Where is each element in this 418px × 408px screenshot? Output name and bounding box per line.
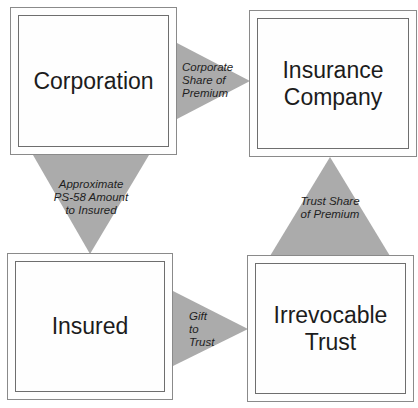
edge-label-ps58-amount: Approximate PS-58 Amount to Insured <box>40 178 142 217</box>
node-label: Corporation <box>33 68 153 95</box>
edge-label-trust-share: Trust Share of Premium <box>282 195 378 221</box>
node-label: Insured <box>52 313 129 340</box>
node-insurance-company-inner: Insurance Company <box>257 18 409 149</box>
node-label: Insurance Company <box>282 57 383 111</box>
edge-label-gift-to-trust: Gift to Trust <box>189 310 214 349</box>
node-label: Irrevocable Trust <box>274 302 388 356</box>
node-insured-inner: Insured <box>15 261 165 392</box>
node-corporation-inner: Corporation <box>18 15 169 147</box>
node-insurance-company: Insurance Company <box>249 10 417 157</box>
node-insured: Insured <box>7 253 173 400</box>
node-irrevocable-trust-inner: Irrevocable Trust <box>255 263 406 394</box>
edge-label-corporate-share: Corporate Share of Premium <box>182 61 233 100</box>
node-corporation: Corporation <box>10 7 177 155</box>
node-irrevocable-trust: Irrevocable Trust <box>247 255 414 402</box>
